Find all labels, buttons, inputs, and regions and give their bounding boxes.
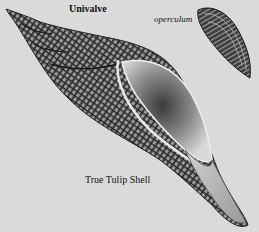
operculum	[198, 8, 251, 78]
figure-caption: True Tulip Shell	[85, 174, 150, 185]
illustration-canvas: Univalve operculum True Tulip Shell	[0, 0, 259, 232]
tulip-shell-illustration	[0, 0, 259, 232]
figure-title: Univalve	[69, 3, 107, 14]
operculum-label: operculum	[154, 14, 192, 24]
